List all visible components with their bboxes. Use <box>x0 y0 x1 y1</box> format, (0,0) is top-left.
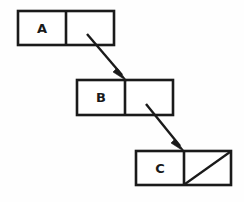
diagram-canvas: A B C <box>0 0 244 202</box>
node-c: C <box>136 151 231 185</box>
node-a-label: A <box>37 21 47 36</box>
node-b: B <box>77 80 173 115</box>
node-c-label: C <box>155 161 165 176</box>
linked-list-diagram: A B C <box>0 0 244 202</box>
node-b-label: B <box>96 90 106 105</box>
node-a: A <box>18 11 114 45</box>
